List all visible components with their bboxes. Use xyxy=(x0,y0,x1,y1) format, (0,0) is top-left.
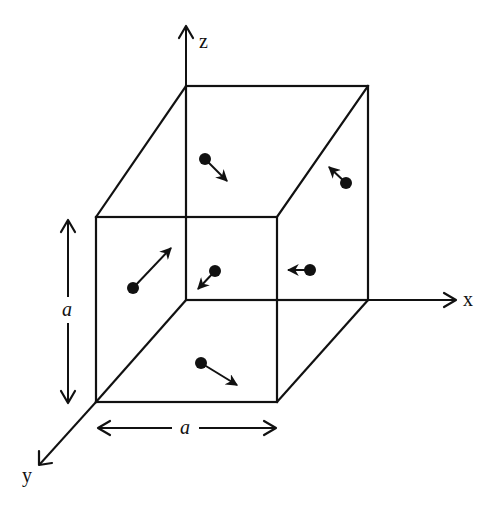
width-dimension: a xyxy=(98,416,276,438)
particle-top-right xyxy=(329,167,352,189)
particle-top-left xyxy=(199,153,227,181)
particle-right xyxy=(288,264,316,276)
y-axis-label: y xyxy=(22,464,32,487)
particle-dot-icon xyxy=(209,265,221,277)
particle-dot-icon xyxy=(199,153,211,165)
particle-dot-icon xyxy=(195,357,207,369)
particle-dot-icon xyxy=(340,177,352,189)
particle-bottom xyxy=(195,357,237,385)
particle-dot-icon xyxy=(304,264,316,276)
cube-particle-diagram: z x y a a xyxy=(0,0,498,516)
cube-edge-bottom-right xyxy=(277,300,368,402)
y-axis: y xyxy=(22,402,96,487)
height-label: a xyxy=(62,298,72,320)
cube-edge-bottom-left xyxy=(96,300,186,402)
z-axis-label: z xyxy=(199,30,208,52)
x-axis-label: x xyxy=(463,288,473,310)
width-label: a xyxy=(180,416,190,438)
particle-dot-icon xyxy=(127,282,139,294)
particle-front-left xyxy=(127,248,171,294)
cube-edge-top-right xyxy=(277,86,368,217)
cube-edge-top-left xyxy=(96,86,186,217)
x-axis: x xyxy=(368,288,473,310)
particle-center xyxy=(198,265,221,289)
height-dimension: a xyxy=(61,220,75,403)
cube xyxy=(96,86,368,402)
